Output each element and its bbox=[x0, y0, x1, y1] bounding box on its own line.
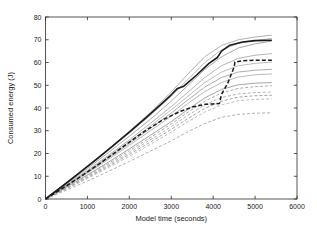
y-axis-title: Consumed energy (J) bbox=[6, 71, 15, 144]
x-tick-label-1000: 1000 bbox=[80, 203, 96, 210]
series-gray-dashed-4 bbox=[46, 99, 272, 199]
series-layer bbox=[46, 35, 272, 199]
y-tick-label-50: 50 bbox=[34, 82, 42, 89]
y-tick-label-0: 0 bbox=[38, 196, 42, 203]
x-tick-label-6000: 6000 bbox=[289, 203, 305, 210]
x-tick-label-2000: 2000 bbox=[122, 203, 138, 210]
y-tick-label-80: 80 bbox=[34, 14, 42, 21]
chart-plot-area: 0100020003000400050006000010203040506070… bbox=[0, 0, 317, 241]
series-gray-solid-8 bbox=[46, 83, 272, 199]
series-gray-dashed-3 bbox=[46, 95, 272, 199]
y-tick-label-20: 20 bbox=[34, 150, 42, 157]
chart-figure: 0100020003000400050006000010203040506070… bbox=[0, 0, 317, 241]
series-gray-dashed-5 bbox=[46, 113, 272, 199]
x-tick-label-3000: 3000 bbox=[163, 203, 179, 210]
y-tick-label-10: 10 bbox=[34, 173, 42, 180]
series-gray-solid-7 bbox=[46, 74, 272, 199]
y-tick-label-40: 40 bbox=[34, 105, 42, 112]
x-tick-label-0: 0 bbox=[44, 203, 48, 210]
x-tick-label-4000: 4000 bbox=[205, 203, 221, 210]
y-tick-label-30: 30 bbox=[34, 127, 42, 134]
y-tick-label-60: 60 bbox=[34, 59, 42, 66]
y-tick-label-70: 70 bbox=[34, 36, 42, 43]
axis-labels-layer: 0100020003000400050006000010203040506070… bbox=[6, 14, 305, 223]
x-tick-label-5000: 5000 bbox=[247, 203, 263, 210]
x-axis-title: Model time (seconds) bbox=[135, 214, 207, 223]
